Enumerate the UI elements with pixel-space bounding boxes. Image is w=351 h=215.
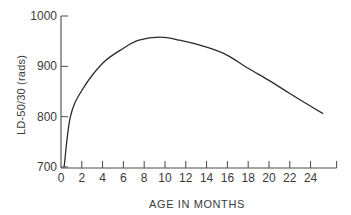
y-axis-title: LD-50/30 (rads) xyxy=(15,55,27,135)
x-tick-label: 18 xyxy=(242,171,256,185)
x-tick-label: 20 xyxy=(262,171,276,185)
x-tick-label: 10 xyxy=(158,171,172,185)
x-tick-label: 6 xyxy=(120,171,127,185)
ld50-curve xyxy=(64,37,323,167)
y-tick-label: 700 xyxy=(37,160,57,174)
x-tick-label: 4 xyxy=(99,171,106,185)
x-tick-label: 12 xyxy=(179,171,193,185)
x-tick-label: 24 xyxy=(304,171,318,185)
x-tick-label: 2 xyxy=(78,171,85,185)
chart-canvas: 7008009001000 024681012141618202224 AGE … xyxy=(0,0,351,215)
y-tick-label: 900 xyxy=(37,59,57,73)
x-axis: 024681012141618202224 xyxy=(58,161,337,185)
x-tick-label: 16 xyxy=(221,171,235,185)
x-axis-title: AGE IN MONTHS xyxy=(149,198,245,210)
y-axis: 7008009001000 xyxy=(30,9,68,174)
x-tick-label: 8 xyxy=(141,171,148,185)
y-tick-label: 800 xyxy=(37,110,57,124)
x-tick-label: 0 xyxy=(58,171,65,185)
x-tick-label: 22 xyxy=(283,171,297,185)
x-tick-label: 14 xyxy=(200,171,214,185)
y-tick-label: 1000 xyxy=(30,9,57,23)
